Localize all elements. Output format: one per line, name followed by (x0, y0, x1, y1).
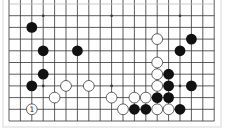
black-stone (129, 104, 140, 115)
black-stone (175, 45, 186, 56)
black-stone (26, 81, 37, 92)
black-stone (26, 22, 37, 33)
white-stone (140, 92, 151, 103)
white-stone (152, 69, 163, 80)
white-stone (61, 81, 72, 92)
white-stone (49, 92, 60, 103)
white-stone (118, 104, 129, 115)
white-stone (129, 92, 140, 103)
white-stone: 1 (26, 104, 37, 115)
black-stone (186, 34, 197, 45)
move-number-label: 1 (29, 105, 34, 114)
black-stone (38, 45, 49, 56)
black-stone (163, 81, 174, 92)
star-point (42, 85, 45, 88)
black-stone (38, 69, 49, 80)
white-stone (152, 81, 163, 92)
star-point (110, 85, 113, 88)
star-point (110, 14, 113, 17)
white-stone (163, 104, 174, 115)
white-stone (152, 57, 163, 68)
black-stone (152, 92, 163, 103)
white-stone (152, 104, 163, 115)
black-stone (163, 92, 174, 103)
black-stone (72, 45, 83, 56)
star-point (179, 85, 182, 88)
black-stone (140, 104, 151, 115)
go-board[interactable]: 1 (0, 0, 225, 132)
star-point (179, 14, 182, 17)
black-stone (186, 81, 197, 92)
black-stone (175, 104, 186, 115)
white-stone (83, 81, 94, 92)
black-stone (163, 69, 174, 80)
white-stone (152, 34, 163, 45)
star-point (42, 14, 45, 17)
white-stone (106, 92, 117, 103)
